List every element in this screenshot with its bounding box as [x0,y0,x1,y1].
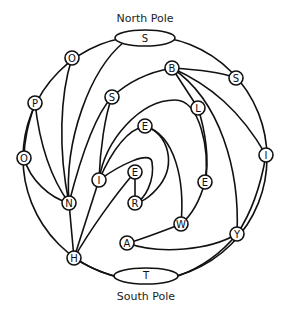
node-e-core: E [128,165,142,179]
svg-text:E: E [142,121,148,132]
svg-text:O: O [20,153,28,164]
node-i-left: I [92,173,106,187]
svg-text:E: E [132,167,138,178]
node-h: H [67,251,81,265]
svg-text:L: L [195,103,201,114]
svg-text:A: A [124,238,131,249]
south-pole: T South Pole [114,268,178,303]
svg-text:I: I [265,150,268,161]
node-o-top: O [65,51,79,65]
north-pole: North Pole S [115,12,175,46]
node-w: W [174,217,188,231]
svg-text:N: N [65,198,72,209]
globe-spiral-diagram: North Pole S T South Pole O P O N H S I … [0,0,288,315]
svg-text:Y: Y [233,229,241,240]
svg-text:H: H [70,253,78,264]
north-pole-label: North Pole [116,12,173,25]
svg-text:W: W [176,219,186,230]
node-s-right: S [229,71,243,85]
node-e-right: E [198,175,212,189]
node-l: L [191,101,205,115]
south-pole-label: South Pole [117,290,175,303]
north-pole-letter: S [142,33,148,44]
node-n: N [62,196,76,210]
svg-text:S: S [109,92,115,103]
svg-text:S: S [233,73,239,84]
svg-text:I: I [98,175,101,186]
node-b: B [165,61,179,75]
svg-text:E: E [202,177,208,188]
node-s-mid: S [105,90,119,104]
svg-text:B: B [169,63,176,74]
node-o-left: O [17,151,31,165]
south-pole-letter: T [142,270,150,281]
node-y: Y [230,227,244,241]
svg-text:P: P [32,98,38,109]
node-r: R [128,196,142,210]
node-a: A [120,236,134,250]
node-e-inner: E [138,119,152,133]
node-i-right: I [259,148,273,162]
svg-text:R: R [132,198,139,209]
node-p: P [28,96,42,110]
svg-text:O: O [68,53,76,64]
